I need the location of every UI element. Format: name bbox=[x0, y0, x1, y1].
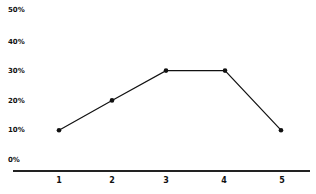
y-tick-label: 40% bbox=[8, 38, 25, 46]
y-tick-label: 20% bbox=[8, 97, 25, 105]
y-tick-label: 0% bbox=[8, 156, 20, 164]
line-chart bbox=[0, 0, 316, 194]
y-tick-label: 30% bbox=[8, 67, 25, 75]
data-point bbox=[110, 98, 115, 103]
x-tick-label: 2 bbox=[109, 176, 115, 185]
y-tick-label: 50% bbox=[8, 6, 25, 14]
x-tick-label: 3 bbox=[163, 176, 169, 185]
x-tick-label: 1 bbox=[56, 176, 62, 185]
data-point-markers bbox=[57, 68, 284, 132]
y-tick-label: 10% bbox=[8, 126, 25, 134]
series-line bbox=[59, 71, 281, 131]
data-point bbox=[279, 128, 284, 133]
data-point bbox=[164, 68, 169, 73]
data-point bbox=[57, 128, 62, 133]
data-point bbox=[223, 68, 228, 73]
x-tick-label: 4 bbox=[221, 176, 227, 185]
x-tick-label: 5 bbox=[279, 176, 285, 185]
